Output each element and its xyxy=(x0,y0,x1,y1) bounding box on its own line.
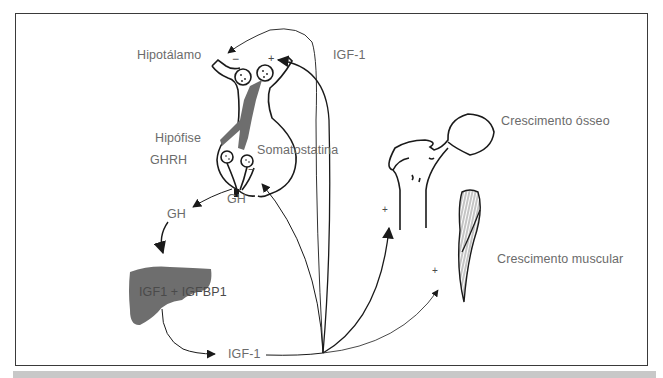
pituitary-stalk xyxy=(220,80,262,150)
pathway-arrows xyxy=(161,29,438,355)
label-ghrh: GHRH xyxy=(150,153,187,167)
label-gh-blood: GH xyxy=(167,207,186,221)
label-igf1-bottom: IGF-1 xyxy=(228,347,260,361)
sign-hypothalamus-negative: − xyxy=(232,52,239,66)
label-gh-pituitary: GH xyxy=(227,192,246,206)
diagram-canvas: Hipotálamo IGF-1 Hipófise GHRH Somatosta… xyxy=(0,0,663,378)
label-igf1-top: IGF-1 xyxy=(333,48,365,62)
label-muscle-growth: Crescimento muscular xyxy=(497,252,623,266)
label-hypothalamus: Hipotálamo xyxy=(137,48,201,62)
sign-muscle-positive: + xyxy=(432,265,438,276)
pituitary-gland-icon xyxy=(212,57,296,197)
sign-hypothalamus-positive: + xyxy=(268,52,275,64)
sign-bone-positive: + xyxy=(382,204,388,215)
label-liver: IGF1 + IGFBP1 xyxy=(139,285,227,299)
label-somatostatin: Somatostatina xyxy=(257,143,338,157)
label-bone-growth: Crescimento ósseo xyxy=(501,114,610,128)
muscle-icon xyxy=(459,190,481,302)
sign-pituitary-negative: − xyxy=(248,163,255,175)
label-pituitary: Hipófise xyxy=(155,131,201,145)
diagram-graphics xyxy=(0,0,663,378)
